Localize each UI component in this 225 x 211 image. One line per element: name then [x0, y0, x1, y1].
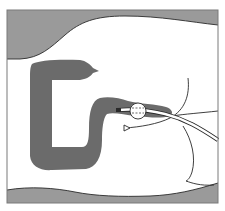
balloon — [130, 103, 146, 119]
bowel-catheter-diagram — [0, 0, 225, 211]
catheter-tip — [116, 108, 121, 112]
